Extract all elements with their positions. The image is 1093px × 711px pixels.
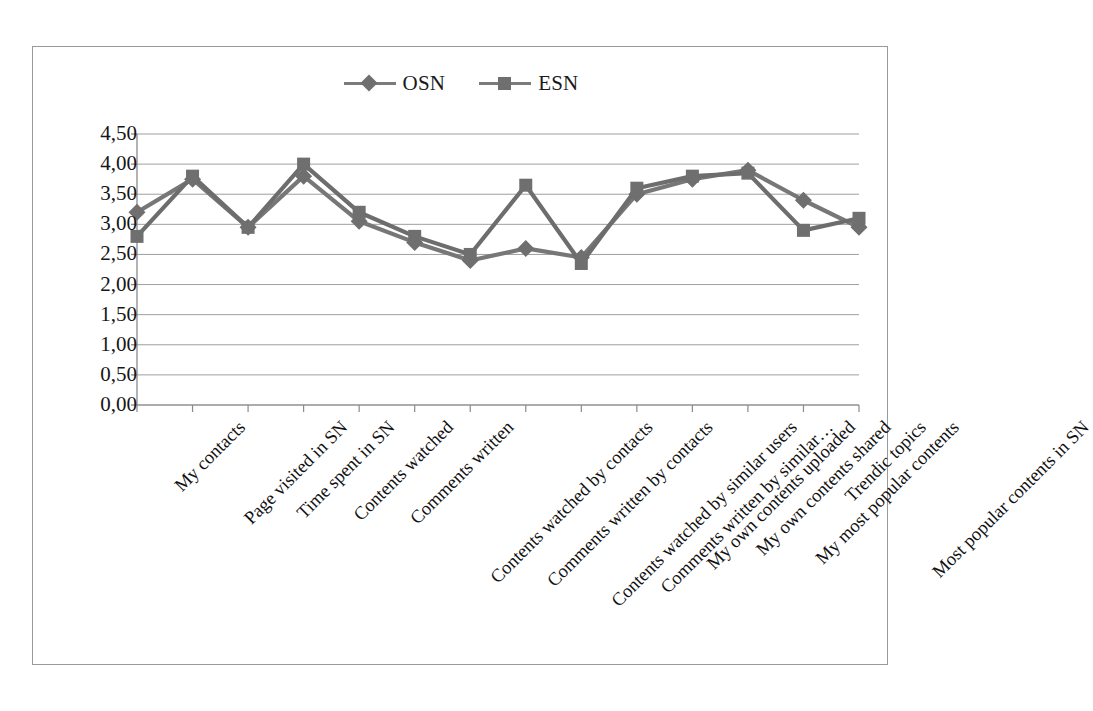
x-axis-category-labels: My contactsPage visited in SNTime spent …	[33, 47, 889, 666]
x-tick-label: Comments written	[406, 417, 518, 529]
x-tick-label: My contacts	[171, 417, 250, 496]
chart-plot-area: OSN ESN 4,504,003,503,002,502,001,501,00…	[33, 47, 889, 666]
x-tick-label: Contents watched	[349, 417, 457, 525]
chart-figure-frame: OSN ESN 4,504,003,503,002,502,001,501,00…	[32, 46, 888, 665]
